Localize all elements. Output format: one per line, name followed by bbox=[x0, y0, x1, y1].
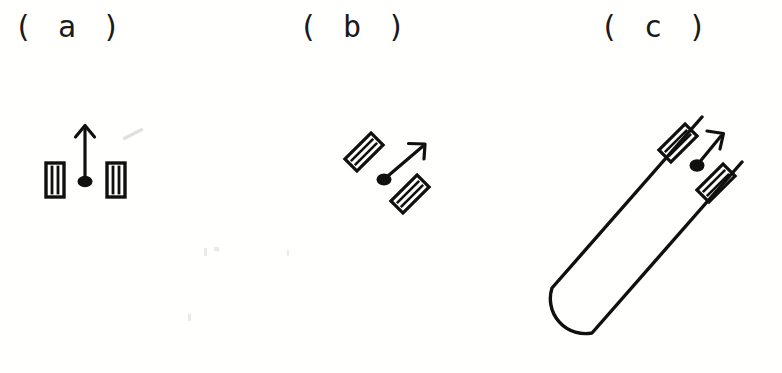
panel-b: ( b ) bbox=[280, 0, 480, 373]
scan-speck bbox=[204, 248, 207, 256]
panel-c-label: ( c ) bbox=[600, 12, 710, 42]
panel-c: ( c ) bbox=[480, 0, 782, 373]
panel-a-label: ( a ) bbox=[14, 12, 124, 42]
scan-speck bbox=[287, 250, 289, 256]
figure-canvas: ( a ) ( b ) ( c ) bbox=[0, 0, 782, 373]
panel-a: ( a ) bbox=[0, 0, 280, 373]
scan-speck bbox=[188, 314, 191, 321]
scan-speck bbox=[214, 247, 219, 251]
panel-b-label: ( b ) bbox=[299, 12, 409, 42]
